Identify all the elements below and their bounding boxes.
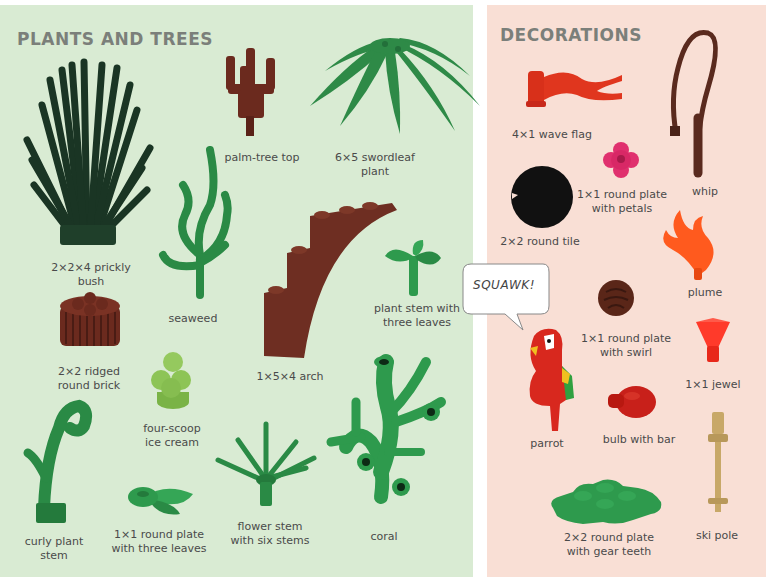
jewel-label: 1×1 jewel xyxy=(685,378,740,392)
round-plate-gear-teeth-image xyxy=(543,478,665,526)
round-plate-gear-teeth-label: 2×2 round platewith gear teeth xyxy=(564,531,654,559)
plants-section-title: PLANTS AND TREES xyxy=(17,29,213,49)
plume-image xyxy=(658,208,720,280)
arch-image xyxy=(262,198,402,363)
speech-bubble-text: SQUAWK! xyxy=(461,278,547,292)
ridged-round-brick-label: 2×2 ridgedround brick xyxy=(58,365,120,393)
parrot-label: parrot xyxy=(530,437,563,451)
whip-label: whip xyxy=(692,185,718,199)
curly-plant-stem-image xyxy=(24,398,89,526)
ski-pole-label: ski pole xyxy=(696,529,738,543)
flower-stem-six-stems-label: flower stemwith six stems xyxy=(231,520,310,548)
bulb-with-bar-label: bulb with bar xyxy=(603,433,676,447)
round-tile-label: 2×2 round tile xyxy=(500,235,579,249)
round-tile-image xyxy=(510,165,574,229)
round-plate-petals-label: 1×1 round platewith petals xyxy=(577,188,667,216)
palm-tree-top-image xyxy=(222,44,282,139)
decorations-section-title: DECORATIONS xyxy=(500,25,642,45)
whip-image xyxy=(668,28,728,178)
seaweed-image xyxy=(155,145,240,300)
round-plate-swirl-image xyxy=(596,278,636,318)
curly-plant-stem-label: curly plantstem xyxy=(25,535,84,563)
plant-stem-three-leaves-image xyxy=(383,238,443,300)
arch-label: 1×5×4 arch xyxy=(257,370,324,384)
round-plate-three-leaves-image xyxy=(125,482,195,517)
plume-label: plume xyxy=(688,286,723,300)
prickly-bush-label: 2×2×4 pricklybush xyxy=(51,261,130,289)
jewel-image xyxy=(692,318,734,368)
speech-bubble xyxy=(461,262,549,324)
four-scoop-ice-cream-label: four-scoopice cream xyxy=(143,422,201,450)
round-plate-swirl-label: 1×1 round platewith swirl xyxy=(581,332,671,360)
flower-stem-six-stems-image xyxy=(216,422,316,512)
plant-stem-three-leaves-label: plant stem withthree leaves xyxy=(374,302,460,330)
parrot-image xyxy=(522,326,582,434)
wave-flag-image xyxy=(522,65,627,115)
four-scoop-ice-cream-image xyxy=(149,350,197,412)
swordleaf-plant-image xyxy=(305,36,485,136)
wave-flag-label: 4×1 wave flag xyxy=(512,128,592,142)
coral-label: coral xyxy=(370,530,397,544)
ridged-round-brick-image xyxy=(58,292,122,354)
bulb-with-bar-image xyxy=(606,382,658,422)
seaweed-label: seaweed xyxy=(169,312,218,326)
round-plate-three-leaves-label: 1×1 round platewith three leaves xyxy=(111,528,206,556)
prickly-bush-image xyxy=(22,60,152,250)
round-plate-petals-image xyxy=(603,142,639,178)
swordleaf-plant-label: 6×5 swordleafplant xyxy=(335,151,415,179)
ski-pole-image xyxy=(704,412,732,520)
coral-image xyxy=(326,352,451,512)
